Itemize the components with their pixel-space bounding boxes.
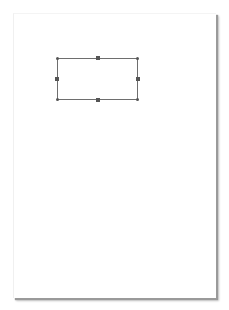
document-page[interactable] bbox=[13, 13, 216, 298]
resize-handle-middle-left[interactable] bbox=[55, 77, 59, 81]
resize-handle-bottom-right[interactable] bbox=[136, 98, 139, 101]
resize-handle-bottom-left[interactable] bbox=[56, 98, 59, 101]
selected-rectangle-shape[interactable] bbox=[57, 58, 138, 100]
resize-handle-top-middle[interactable] bbox=[96, 56, 100, 60]
document-canvas bbox=[0, 0, 229, 310]
resize-handle-top-right[interactable] bbox=[136, 57, 139, 60]
resize-handle-top-left[interactable] bbox=[56, 57, 59, 60]
resize-handle-bottom-middle[interactable] bbox=[96, 98, 100, 102]
resize-handle-middle-right[interactable] bbox=[136, 77, 140, 81]
